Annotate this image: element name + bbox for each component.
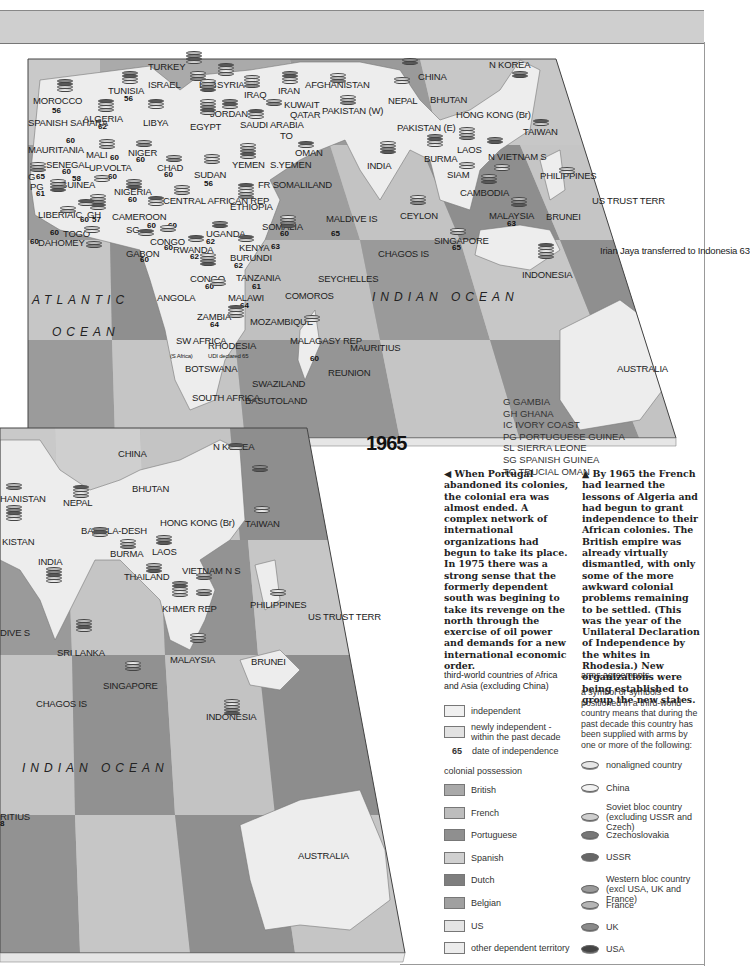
arms-disc <box>136 143 152 147</box>
arms-disc <box>240 155 256 159</box>
legend-newly-independent: newly independent - within the past deca… <box>444 722 574 742</box>
arms-symbol-icon <box>218 64 234 76</box>
independence-date: 60 <box>80 216 89 224</box>
independence-date: 60 <box>66 137 75 145</box>
arms-symbol-icon <box>487 138 503 144</box>
arms-symbol-icon <box>402 59 418 65</box>
arms-disc <box>280 224 296 228</box>
arms-disc <box>188 238 204 242</box>
arms-symbol-icon <box>410 196 426 205</box>
arms-disc <box>394 80 410 84</box>
arms-disc <box>156 541 172 545</box>
country-label: LAOS <box>457 145 482 155</box>
arms-symbol-icon <box>50 180 66 192</box>
arms-disc <box>190 639 206 643</box>
legend-independent: independent <box>444 705 521 717</box>
country-label: ANGOLA <box>157 293 195 303</box>
arms-disc <box>218 72 234 76</box>
legend-label: date of independence <box>472 746 559 756</box>
independence-date: 64 <box>210 321 219 329</box>
country-label: BRUNEI <box>546 212 581 222</box>
swatch <box>444 784 465 796</box>
arms-disc <box>298 144 314 148</box>
arms-symbol-icon <box>6 506 22 521</box>
legend-arms-usa: USA <box>581 944 705 954</box>
country-label: INDIA <box>38 557 62 567</box>
abbr-item: G GAMBIA <box>503 396 625 408</box>
country-label: NEPAL <box>63 498 92 508</box>
independence-date: 60 <box>164 244 173 252</box>
country-label: CAMBODIA <box>460 188 509 198</box>
arms-disc <box>533 122 549 126</box>
arms-disc <box>238 195 254 199</box>
country-label: CHINA <box>418 72 447 82</box>
arms-disc <box>266 102 282 106</box>
legend-left-title: third-world countries of Africa and Asia… <box>444 670 574 692</box>
map-note: (S Africa) <box>170 353 193 359</box>
swatch <box>444 726 465 738</box>
arms-symbol-icon <box>280 216 296 228</box>
arms-symbol-icon <box>174 186 190 195</box>
arms-symbol-icon <box>57 80 73 92</box>
legend-label: Spanish <box>471 853 504 863</box>
legend-label: Czechoslovakia <box>606 830 669 840</box>
independence-date: 56 <box>52 107 61 115</box>
arms-disc <box>252 468 268 472</box>
arms-symbol-icon <box>200 80 216 92</box>
country-label: SINGAPORE <box>434 236 489 246</box>
legend-label: British <box>471 785 496 795</box>
arms-disc <box>6 517 22 521</box>
abbreviation-key: G GAMBIA GH GHANA IC IVORY COAST PG PORT… <box>503 396 625 477</box>
arms-disc <box>196 576 212 580</box>
arms-symbol-icon <box>394 78 410 84</box>
arms-disc <box>481 180 497 184</box>
arms-symbol-icon <box>559 168 575 174</box>
arms-disc <box>511 203 527 207</box>
arms-disc <box>340 101 356 105</box>
arms-symbol-icon <box>222 100 238 109</box>
arms-symbol-icon <box>136 141 152 147</box>
arms-symbol-icon <box>228 444 244 450</box>
arms-symbol-icon <box>86 242 102 248</box>
legend-label: France <box>606 900 634 910</box>
independence-date: 60 <box>140 256 149 264</box>
map-note: UDI declared 65 <box>208 353 248 359</box>
arms-symbol-icon <box>494 165 510 171</box>
arms-disc <box>222 105 238 109</box>
arms-symbol-icon <box>581 831 599 839</box>
legend-arms-ussr: USSR <box>581 852 705 862</box>
arms-symbol-icon <box>172 582 188 597</box>
arms-symbol-icon <box>98 100 114 112</box>
country-label: IRAN <box>278 86 300 96</box>
country-label: KISTAN <box>2 537 34 547</box>
arms-symbol-icon <box>204 155 220 164</box>
arms-symbol-icon <box>512 72 528 78</box>
country-label: MALDIVE IS <box>326 214 377 224</box>
arms-symbol-icon <box>340 96 356 105</box>
arms-symbol-icon <box>380 142 396 154</box>
country-label: BHUTAN <box>430 95 467 105</box>
arms-symbol-icon <box>196 590 212 596</box>
arms-symbol-icon <box>244 76 260 88</box>
legend-right-title: arms agreements <box>581 670 649 681</box>
country-label: ISRAEL <box>148 80 181 90</box>
arms-symbol-icon <box>538 244 554 259</box>
arms-disc <box>57 88 73 92</box>
arms-symbol-icon <box>156 536 172 545</box>
arms-symbol-icon <box>60 207 76 213</box>
country-label: DAHOMEY <box>38 238 85 248</box>
arms-symbol-icon <box>450 229 466 235</box>
country-label: SEYCHELLES <box>318 274 378 284</box>
swatch <box>444 852 465 864</box>
legend-colonial-spanish: Spanish <box>444 852 504 864</box>
ocean-label: INDIAN OCEAN <box>22 762 169 774</box>
arms-disc <box>99 145 115 149</box>
swatch <box>444 807 465 819</box>
country-label: SIAM <box>447 170 469 180</box>
legend-arms-soviet-bloc-country-excluding-: Soviet bloc country (excluding USSR and … <box>581 802 705 832</box>
swatch <box>444 920 465 932</box>
country-label: THAILAND <box>124 572 169 582</box>
arms-disc <box>494 167 510 171</box>
country-label: BASUTOLAND <box>245 396 307 406</box>
independence-date: 56 <box>124 95 133 103</box>
